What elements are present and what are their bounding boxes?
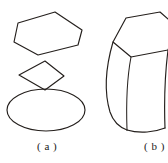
panel-b-group <box>106 12 168 132</box>
geometry-figure-svg <box>0 0 168 163</box>
rhombus-shape <box>19 61 64 90</box>
top-face-hexagon-shape <box>113 12 168 57</box>
front-edge-curve-shape <box>127 57 131 130</box>
ellipse-shape <box>7 89 85 131</box>
figure-container: ( a ) ( b ) <box>0 0 168 163</box>
hexagon-shape <box>14 12 82 55</box>
panel-b-label: ( b ) <box>144 141 165 152</box>
bottom-front-curve-shape <box>127 128 165 132</box>
panel-a-label: ( a ) <box>37 141 57 152</box>
left-silhouette-curve-shape <box>106 42 127 130</box>
right-silhouette-curve-shape <box>165 50 168 128</box>
panel-a-group <box>7 12 85 131</box>
